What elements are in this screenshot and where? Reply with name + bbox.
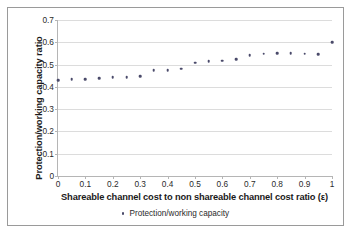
data-point	[57, 79, 60, 82]
y-tick-mark	[55, 20, 58, 21]
plot-area: 00.10.20.30.40.50.60.700.10.20.30.40.50.…	[57, 20, 332, 177]
y-tick-mark	[55, 87, 58, 88]
x-tick-label: 0.6	[217, 179, 229, 189]
data-point	[290, 52, 293, 55]
y-tick-mark	[55, 131, 58, 132]
x-tick-label: 0.8	[271, 179, 283, 189]
data-point	[180, 68, 183, 71]
y-tick-label: 0	[49, 171, 54, 181]
x-tick-label: 0.4	[162, 179, 174, 189]
data-point	[207, 60, 210, 63]
data-point	[303, 53, 306, 56]
y-tick-mark	[55, 42, 58, 43]
x-tick-label: 0.3	[134, 179, 146, 189]
figure-frame: Protection/working capacity ratio 00.10.…	[7, 7, 344, 226]
gridline-horizontal	[58, 20, 332, 21]
data-point	[235, 58, 238, 61]
x-tick-label: 0.7	[244, 179, 256, 189]
y-tick-label: 0.2	[42, 126, 54, 136]
gridline-horizontal	[58, 109, 332, 110]
y-tick-label: 0.1	[42, 149, 54, 159]
data-point	[139, 75, 142, 78]
x-tick-label: 0.5	[189, 179, 201, 189]
y-tick-label: 0.3	[42, 104, 54, 114]
data-point	[98, 77, 101, 80]
data-point	[84, 78, 87, 81]
data-point	[166, 69, 169, 72]
x-tick-label: 0.9	[299, 179, 311, 189]
data-point	[153, 69, 156, 72]
x-tick-label: 0	[56, 179, 61, 189]
chart-figure: Protection/working capacity ratio 00.10.…	[8, 8, 343, 225]
legend-marker-icon	[122, 212, 125, 215]
gridline-horizontal	[58, 87, 332, 88]
data-point	[276, 52, 279, 55]
y-tick-label: 0.6	[42, 37, 54, 47]
data-point	[112, 76, 115, 79]
data-point	[194, 61, 197, 64]
y-tick-label: 0.5	[42, 60, 54, 70]
y-tick-label: 0.4	[42, 82, 54, 92]
x-tick-label: 0.2	[107, 179, 119, 189]
data-point	[317, 53, 320, 56]
y-tick-label: 0.7	[42, 15, 54, 25]
x-tick-label: 1	[330, 179, 335, 189]
gridline-horizontal	[58, 154, 332, 155]
chart-legend: Protection/working capacity	[8, 208, 343, 219]
y-tick-mark	[55, 109, 58, 110]
gridline-horizontal	[58, 65, 332, 66]
data-point	[331, 41, 334, 44]
gridline-horizontal	[58, 42, 332, 43]
legend-item: Protection/working capacity	[116, 208, 235, 219]
data-point	[249, 54, 252, 57]
gridline-horizontal	[58, 131, 332, 132]
data-point	[262, 53, 265, 56]
y-tick-mark	[55, 65, 58, 66]
data-point	[125, 76, 128, 79]
y-tick-mark	[55, 154, 58, 155]
data-point	[70, 78, 73, 81]
x-tick-label: 0.1	[80, 179, 92, 189]
legend-item-label: Protection/working capacity	[129, 209, 229, 218]
x-axis-title: Shareable channel cost to non shareable …	[57, 192, 332, 202]
data-point	[221, 59, 224, 62]
